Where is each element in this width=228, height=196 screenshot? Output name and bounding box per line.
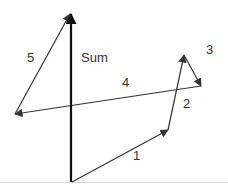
sum-label: Sum	[81, 51, 108, 64]
vector-addition-diagram: 12345Sum	[0, 0, 228, 196]
vectors-layer	[15, 14, 201, 182]
vector-1-arrow	[72, 130, 168, 182]
vector-5-label: 5	[27, 51, 34, 64]
vector-4-label: 4	[122, 76, 129, 89]
vector-5-arrow	[15, 14, 70, 114]
vector-2-arrow	[168, 55, 184, 130]
vector-1-label: 1	[133, 149, 140, 162]
vector-2-label: 2	[183, 97, 190, 110]
diagram-svg	[0, 0, 228, 196]
vector-3-arrow	[184, 55, 201, 86]
vector-4-arrow	[15, 86, 201, 114]
vector-3-label: 3	[206, 43, 213, 56]
